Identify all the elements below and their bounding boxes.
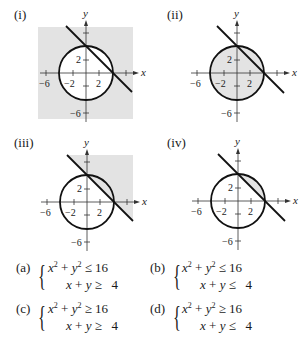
svg-text:2: 2	[77, 183, 82, 194]
svg-text:−6: −6	[71, 237, 82, 248]
graphs-canvas: y x −6 −2 2 2 −6 y x −6 −2 2 2 −6	[0, 0, 305, 255]
choice-b-ineq-1: x2 + y2 ≤ 16	[182, 259, 242, 276]
choice-c-label: (c)	[16, 300, 30, 317]
choice-a: (a) { x2 + y2 ≤ 16 x + y ≥ 4	[16, 259, 136, 293]
svg-text:x: x	[291, 66, 297, 78]
svg-text:−2: −2	[64, 78, 75, 89]
choice-a-label: (a)	[16, 259, 30, 276]
brace-icon: {	[173, 299, 181, 333]
svg-text:−6: −6	[221, 108, 232, 119]
svg-text:−2: −2	[215, 78, 226, 89]
y-axis-label-i: y	[82, 7, 88, 19]
graph-ii: y x −6 −2 2 2 −6	[190, 7, 297, 122]
svg-text:−6: −6	[39, 78, 50, 89]
brace-icon: {	[173, 258, 181, 292]
svg-text:2: 2	[96, 78, 101, 89]
svg-text:x: x	[141, 195, 147, 207]
svg-text:2: 2	[227, 54, 232, 65]
choice-d: (d) { x2 + y2 ≥ 16 x + y ≤ 4	[150, 300, 270, 334]
svg-text:−6: −6	[190, 78, 201, 89]
shaded-region-iv	[238, 150, 270, 201]
choice-d-label: (d)	[150, 300, 165, 317]
choice-c-ineq-2: x + y ≥ 4	[66, 317, 118, 334]
choice-c-ineq-1: x2 + y2 ≥ 16	[48, 300, 108, 317]
choice-b-ineq-2: x + y ≤ 4	[200, 276, 252, 293]
svg-text:−6: −6	[70, 108, 81, 119]
svg-text:2: 2	[248, 206, 253, 217]
svg-text:−2: −2	[65, 207, 76, 218]
svg-text:y: y	[233, 7, 239, 19]
graph-iii: y x −6 −2 2 2 −6	[40, 136, 147, 251]
choice-a-ineq-1: x2 + y2 ≤ 16	[48, 259, 108, 276]
svg-text:y: y	[234, 135, 240, 147]
svg-text:−6: −6	[222, 236, 233, 247]
brace-icon: {	[38, 299, 46, 333]
brace-icon: {	[38, 258, 46, 292]
svg-text:2: 2	[247, 78, 252, 89]
svg-text:−6: −6	[191, 206, 202, 217]
choice-a-ineq-2: x + y ≥ 4	[66, 276, 118, 293]
svg-text:2: 2	[228, 182, 233, 193]
x-axis-label-i: x	[140, 66, 146, 78]
svg-text:−2: −2	[216, 206, 227, 217]
choice-b: (b) { x2 + y2 ≤ 16 x + y ≤ 4	[150, 259, 270, 293]
choice-b-label: (b)	[150, 259, 165, 276]
graph-iv: y x −6 −2 2 2 −6	[191, 135, 298, 250]
choice-c: (c) { x2 + y2 ≥ 16 x + y ≥ 4	[16, 300, 136, 334]
svg-text:−6: −6	[40, 207, 51, 218]
choice-d-ineq-1: x2 + y2 ≥ 16	[182, 300, 242, 317]
svg-text:2: 2	[76, 54, 81, 65]
svg-text:x: x	[292, 194, 298, 206]
graph-i: y x −6 −2 2 2 −6	[38, 7, 146, 122]
choice-d-ineq-2: x + y ≤ 4	[200, 317, 252, 334]
svg-text:2: 2	[97, 207, 102, 218]
svg-text:y: y	[83, 136, 89, 148]
